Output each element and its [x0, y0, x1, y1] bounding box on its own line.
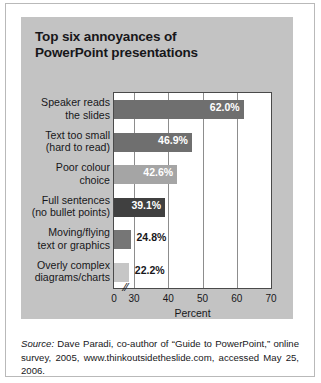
category-label-line: diagrams/charts — [0, 271, 110, 283]
x-tick-label-30: 30 — [128, 293, 139, 304]
figure-root: Top six annoyances of PowerPoint present… — [0, 0, 321, 383]
source-text: Dave Paradi, co-author of “Guide to Powe… — [21, 338, 299, 376]
bar-row: 62.0% — [114, 93, 271, 126]
category-label: Poor colourchoice — [0, 161, 110, 186]
category-label: Overly complexdiagrams/charts — [0, 259, 110, 284]
category-label-line: (no bullet points) — [0, 206, 110, 218]
category-label-line: Text too small — [0, 129, 110, 141]
x-tick-label-70: 70 — [265, 293, 276, 304]
bar — [114, 263, 129, 282]
category-label-line: Full sentences — [0, 194, 110, 206]
category-label-line: Speaker reads — [0, 96, 110, 108]
category-label-line: Moving/flying — [0, 226, 110, 238]
source-note: Source: Dave Paradi, co-author of “Guide… — [21, 337, 299, 378]
x-tick-label-50: 50 — [197, 293, 208, 304]
bar-value-label: 39.1% — [131, 200, 161, 211]
x-axis-title: Percent — [113, 307, 272, 319]
bar-row: 22.2% — [114, 256, 271, 289]
bar-row: 39.1% — [114, 191, 271, 224]
x-tick-label-60: 60 — [231, 293, 242, 304]
category-label-line: (hard to read) — [0, 141, 110, 153]
chart-panel: Top six annoyances of PowerPoint present… — [21, 17, 293, 319]
source-label: Source: — [21, 338, 54, 349]
bar-row: 42.6% — [114, 158, 271, 191]
category-label-line: the slides — [0, 109, 110, 121]
bar-value-label: 62.0% — [210, 102, 240, 113]
x-tick-label-40: 40 — [163, 293, 174, 304]
chart-title-line-1: Top six annoyances of — [35, 29, 275, 45]
x-tick-label-0: 0 — [111, 293, 117, 304]
category-label: Moving/flyingtext or graphics — [0, 226, 110, 251]
category-label-line: choice — [0, 174, 110, 186]
category-label: Text too small(hard to read) — [0, 129, 110, 154]
bar-value-label: 42.6% — [143, 167, 173, 178]
chart-title-line-2: PowerPoint presentations — [35, 45, 275, 61]
category-label: Speaker readsthe slides — [0, 96, 110, 121]
chart-title: Top six annoyances of PowerPoint present… — [35, 29, 275, 61]
bar-value-label: 22.2% — [135, 265, 165, 276]
plot-area: 62.0%46.9%42.6%39.1%24.8%22.2% — [113, 92, 272, 289]
bar — [114, 230, 131, 249]
bar-value-label: 46.9% — [158, 135, 188, 146]
bar-value-label: 24.8% — [137, 232, 167, 243]
category-label-line: Poor colour — [0, 161, 110, 173]
bar-row: 46.9% — [114, 126, 271, 159]
category-label-line: text or graphics — [0, 239, 110, 251]
bar-row: 24.8% — [114, 223, 271, 256]
category-label: Full sentences(no bullet points) — [0, 194, 110, 219]
category-label-line: Overly complex — [0, 259, 110, 271]
